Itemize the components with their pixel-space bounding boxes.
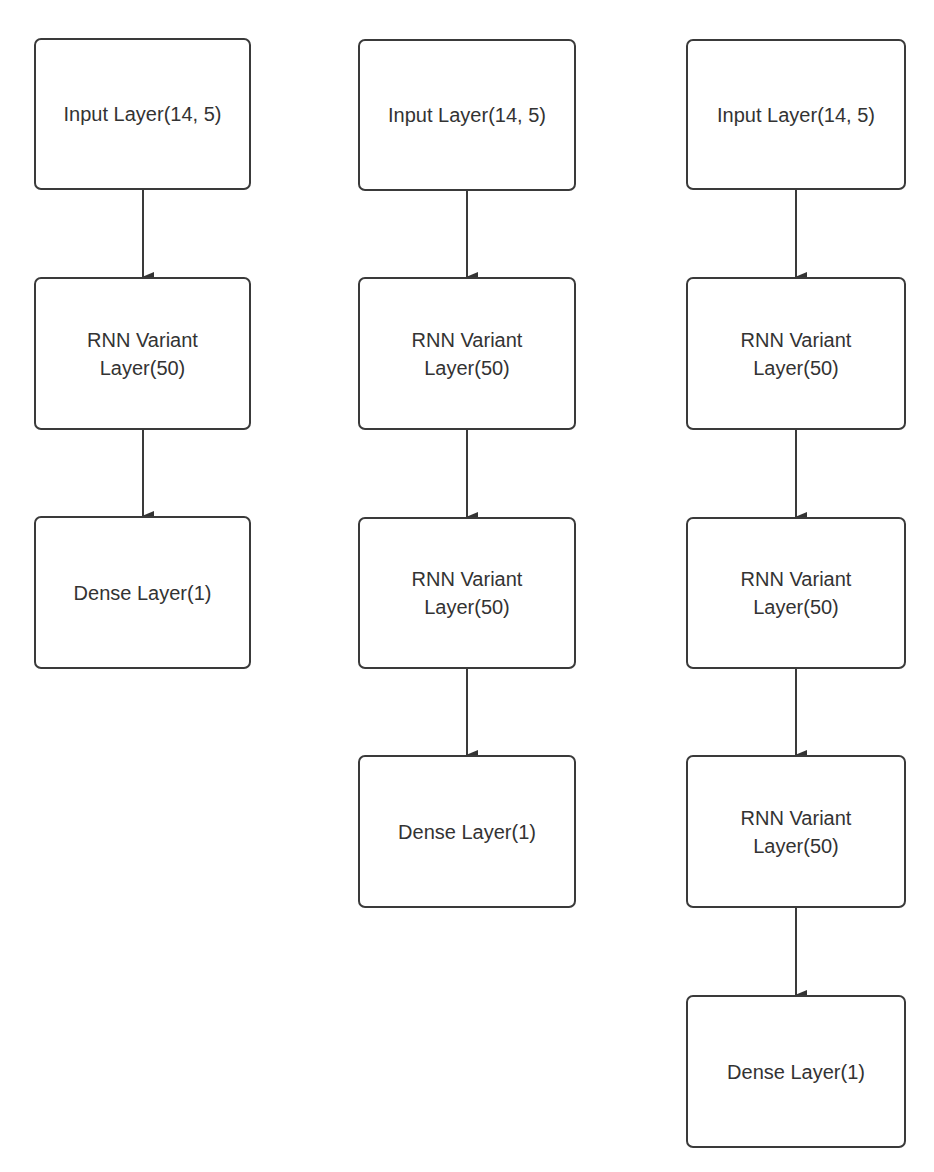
rnn-layer-node: RNN VariantLayer(50): [686, 277, 906, 430]
dense-layer-node: Dense Layer(1): [686, 995, 906, 1148]
rnn-layer-node: RNN VariantLayer(50): [686, 755, 906, 908]
rnn-layer-node: RNN VariantLayer(50): [686, 517, 906, 669]
node-label: Dense Layer(1): [398, 818, 536, 846]
node-label: Input Layer(14, 5): [717, 101, 875, 129]
node-label: Layer(50): [753, 354, 839, 382]
node-label: RNN Variant: [412, 326, 523, 354]
node-label: RNN Variant: [412, 565, 523, 593]
rnn-layer-node: RNN VariantLayer(50): [34, 277, 251, 430]
node-label: RNN Variant: [87, 326, 198, 354]
dense-layer-node: Dense Layer(1): [34, 516, 251, 669]
node-label: Layer(50): [100, 354, 186, 382]
input-layer-node: Input Layer(14, 5): [34, 38, 251, 190]
node-label: RNN Variant: [741, 804, 852, 832]
input-layer-node: Input Layer(14, 5): [358, 39, 576, 191]
node-label: Layer(50): [753, 832, 839, 860]
node-label: Dense Layer(1): [727, 1058, 865, 1086]
node-label: Input Layer(14, 5): [388, 101, 546, 129]
node-label: RNN Variant: [741, 565, 852, 593]
input-layer-node: Input Layer(14, 5): [686, 39, 906, 190]
rnn-layer-node: RNN VariantLayer(50): [358, 517, 576, 669]
node-label: Input Layer(14, 5): [64, 100, 222, 128]
node-label: Layer(50): [424, 593, 510, 621]
node-label: Dense Layer(1): [74, 579, 212, 607]
node-label: Layer(50): [424, 354, 510, 382]
dense-layer-node: Dense Layer(1): [358, 755, 576, 908]
node-label: RNN Variant: [741, 326, 852, 354]
rnn-layer-node: RNN VariantLayer(50): [358, 277, 576, 430]
node-label: Layer(50): [753, 593, 839, 621]
